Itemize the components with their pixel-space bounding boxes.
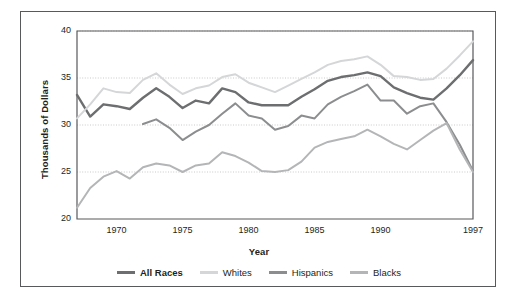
x-tick-label-1997: 1997 <box>453 225 493 235</box>
x-tick-label-1990: 1990 <box>361 225 401 235</box>
legend-label: Hispanics <box>292 267 333 278</box>
legend-item-hispanics[interactable]: Hispanics <box>269 267 333 278</box>
figure-container: Thousands of Dollars Year 4035302520 197… <box>0 0 515 299</box>
y-tick-label-20: 20 <box>41 213 71 223</box>
legend-label: Blacks <box>373 267 401 278</box>
series-line-blacks <box>77 123 473 208</box>
x-axis-title: Year <box>21 246 497 257</box>
gridlines <box>77 31 473 172</box>
legend-label: All Races <box>140 267 183 278</box>
y-tick-label-40: 40 <box>41 25 71 35</box>
y-tick-label-35: 35 <box>41 72 71 82</box>
y-tick-label-25: 25 <box>41 166 71 176</box>
chart-legend: All RacesWhitesHispanicsBlacks <box>21 267 497 278</box>
legend-item-all-races[interactable]: All Races <box>117 267 183 278</box>
series-line-all-races <box>77 60 473 116</box>
legend-swatch-icon <box>269 271 287 274</box>
legend-label: Whites <box>223 267 252 278</box>
legend-item-whites[interactable]: Whites <box>200 267 252 278</box>
series-line-whites <box>77 41 473 118</box>
x-tick-label-1985: 1985 <box>295 225 335 235</box>
x-tick-label-1980: 1980 <box>229 225 269 235</box>
legend-swatch-icon <box>117 271 135 274</box>
y-tick-label-30: 30 <box>41 119 71 129</box>
legend-swatch-icon <box>200 271 218 274</box>
x-tick-label-1975: 1975 <box>163 225 203 235</box>
data-series-group <box>77 41 473 207</box>
x-tick-label-1970: 1970 <box>97 225 137 235</box>
legend-item-blacks[interactable]: Blacks <box>350 267 401 278</box>
legend-swatch-icon <box>350 271 368 274</box>
chart-frame: Thousands of Dollars Year 4035302520 197… <box>20 11 496 287</box>
